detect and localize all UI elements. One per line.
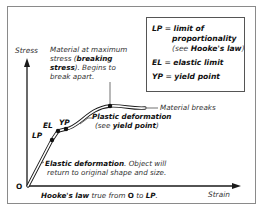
legend-box: LP = limit of proportionality (see Hooke… — [146, 17, 245, 92]
lp-label: LP — [32, 131, 42, 140]
hookes-law-note: Hooke's law true from O to LP. — [41, 192, 158, 200]
x-axis-label: Strain — [208, 191, 230, 199]
legend-row-lp: LP = limit of — [152, 24, 204, 33]
legend-row-lp-cont: proportionality — [172, 34, 237, 43]
max-stress-point-icon — [108, 104, 112, 108]
yp-point-icon — [64, 127, 68, 131]
legend-row-lp-see: (see Hooke's law) — [172, 44, 245, 53]
yp-label: YP — [59, 118, 70, 127]
legend-row-el: EL = elastic limit — [152, 58, 223, 67]
lp-point-icon — [50, 138, 54, 142]
legend-row-yp: YP = yield point — [152, 72, 220, 81]
breaking-stress-term: breaking — [77, 54, 113, 63]
origin-label: O — [16, 182, 22, 191]
yield-point-link: yield point — [113, 121, 156, 130]
el-point-icon — [56, 129, 60, 133]
el-label: EL — [43, 121, 53, 130]
y-axis-arrow-icon — [24, 58, 30, 67]
x-axis-arrow-icon — [232, 183, 241, 189]
y-axis-label: Stress — [15, 47, 38, 55]
